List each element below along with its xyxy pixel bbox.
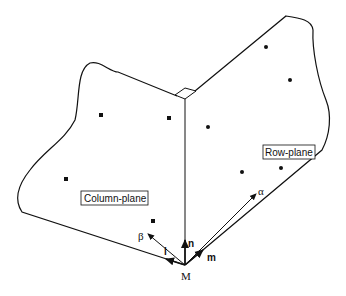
row-plane-label: Row-plane <box>263 145 315 159</box>
column-plane-outline <box>18 63 185 265</box>
vector-beta-arrow <box>148 234 185 265</box>
right-angle-marker <box>175 88 196 99</box>
column-plane-points <box>64 113 171 223</box>
row-plane-outline <box>185 16 329 265</box>
plane-diagram: Column-plane Row-plane n l m α β M <box>0 0 346 296</box>
column-plane-label: Column-plane <box>81 191 148 205</box>
svg-text:Column-plane: Column-plane <box>84 193 147 204</box>
vector-alpha-label: α <box>258 185 264 197</box>
vector-n-label: n <box>188 238 194 249</box>
vector-beta-label: β <box>138 230 144 242</box>
svg-text:Row-plane: Row-plane <box>265 147 313 158</box>
origin-label: M <box>181 270 191 282</box>
vector-alpha-arrow <box>185 194 256 265</box>
vector-m-label: m <box>207 252 216 263</box>
